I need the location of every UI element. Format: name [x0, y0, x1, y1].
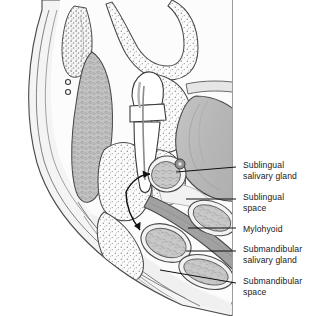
- label-line-2: space: [243, 203, 284, 214]
- label-mylohyoid: Mylohyoid: [243, 224, 283, 235]
- sublingual-salivary-gland: [148, 156, 186, 192]
- label-sublingual-salivary-gland: Sublingual salivary gland: [243, 160, 297, 181]
- figure-canvas: Sublingual salivary gland Sublingual spa…: [0, 0, 323, 316]
- label-sublingual-space: Sublingual space: [243, 192, 284, 213]
- label-line-2: salivary gland: [243, 255, 302, 266]
- label-line-1: Mylohyoid: [243, 224, 283, 235]
- label-line-2: space: [243, 287, 302, 298]
- label-line-1: Sublingual: [243, 160, 297, 171]
- label-line-1: Submandibular: [243, 244, 302, 255]
- label-line-1: Submandibular: [243, 276, 302, 287]
- anatomy-illustration: [0, 0, 323, 316]
- label-line-2: salivary gland: [243, 171, 297, 182]
- label-line-1: Sublingual: [243, 192, 284, 203]
- label-submandibular-salivary-gland: Submandibular salivary gland: [243, 244, 302, 265]
- label-submandibular-space: Submandibular space: [243, 276, 302, 297]
